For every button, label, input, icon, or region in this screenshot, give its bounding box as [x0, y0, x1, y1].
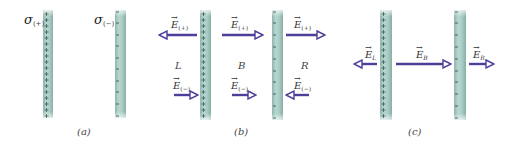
sigma-minus-label: σ(−): [94, 13, 114, 28]
label-E-L: →EL: [365, 50, 376, 61]
panel-a-positive-plate: [43, 10, 53, 118]
label-E-minus-B: →E(−): [231, 81, 248, 92]
label-E-minus-R: →E(−): [294, 81, 311, 92]
caption-a: (a): [77, 127, 91, 137]
caption-b: (b): [234, 127, 248, 137]
sigma-plus-label: σ(+): [24, 13, 44, 28]
label-E-B: →EB: [416, 50, 428, 61]
region-R-label: R: [301, 61, 309, 71]
charged-plates-diagram: σ(+) σ(−) (a) →E(+) →E(+) →E(+) L B R →E…: [0, 0, 512, 151]
panel-b-positive-plate: [200, 10, 211, 120]
region-L-label: L: [175, 61, 182, 71]
panel-a-negative-plate: [115, 10, 126, 118]
label-E-plus-B: →E(+): [231, 20, 248, 31]
label-E-plus-L: →E(+): [171, 20, 188, 31]
panel-c-negative-plate: [454, 10, 466, 120]
panel-b-negative-plate: [272, 10, 283, 120]
label-E-plus-R: →E(+): [294, 20, 311, 31]
label-E-R: →ER: [473, 50, 485, 61]
panel-c-positive-plate: [380, 10, 392, 120]
region-B-label: B: [238, 61, 245, 71]
caption-c: (c): [408, 127, 421, 137]
label-E-minus-L: →E(−): [173, 81, 190, 92]
